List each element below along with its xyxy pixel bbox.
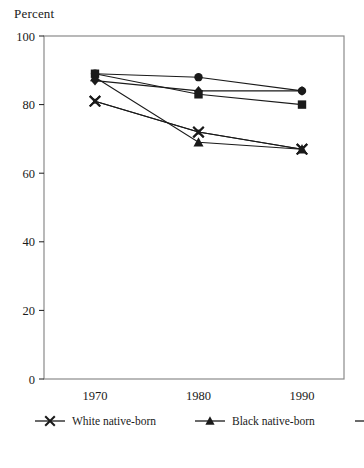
y-tick-label: 80 xyxy=(23,98,36,112)
x-tick-label: 1970 xyxy=(83,389,108,403)
y-tick-label: 60 xyxy=(23,167,36,181)
x-axis-ticks: 197019801990 xyxy=(83,389,315,403)
x-tick-label: 1990 xyxy=(290,389,315,403)
legend-symbol-x-filled-icon xyxy=(354,414,364,428)
legend-symbol-x-icon xyxy=(34,414,66,428)
legend-label: White native-born xyxy=(72,414,156,428)
legend-item-1: Black native-born xyxy=(194,413,354,429)
legend-item-0: White native-born xyxy=(34,413,194,429)
legend-symbol-triangle-icon xyxy=(194,414,226,428)
legend-label: Black native-born xyxy=(232,414,315,428)
y-tick-label: 40 xyxy=(23,235,36,249)
y-tick-label: 20 xyxy=(23,304,36,318)
chart-plot-area: 020406080100 197019801990 xyxy=(0,0,364,410)
chart-legend: White native-born Black native-born Hisp… xyxy=(34,413,354,429)
legend-item-2: Hispanic native-born xyxy=(354,413,364,429)
chart-container: Percent 020406080100 197019801990 White … xyxy=(0,0,364,468)
y-tick-label: 0 xyxy=(29,373,35,387)
x-tick-label: 1980 xyxy=(186,389,211,403)
y-tick-label: 100 xyxy=(16,30,35,44)
y-axis-ticks: 020406080100 xyxy=(16,30,44,387)
y-axis-title: Percent xyxy=(14,6,54,22)
plot-frame xyxy=(44,36,344,379)
data-point-square xyxy=(298,100,306,108)
data-point-circle xyxy=(194,73,202,81)
